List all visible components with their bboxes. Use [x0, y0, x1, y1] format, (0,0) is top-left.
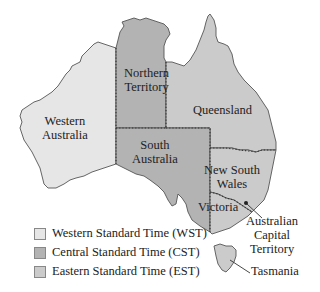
label-tasmania: Tasmania — [251, 264, 299, 278]
label-line: Wales — [204, 177, 260, 191]
label-line: Territory — [246, 242, 298, 256]
legend-label: Eastern Standard Time (EST) — [52, 264, 200, 279]
label-new-south-wales: New South Wales — [204, 163, 260, 191]
legend-item-cst: Central Standard Time (CST) — [34, 243, 207, 262]
label-line: Victoria — [198, 200, 238, 214]
label-line: South — [132, 138, 178, 152]
label-line: Tasmania — [251, 264, 299, 278]
label-line: Australia — [132, 152, 178, 166]
label-line: Australia — [42, 128, 88, 142]
label-northern-territory: Northern Territory — [124, 66, 169, 94]
label-line: Northern — [124, 66, 169, 80]
label-act: Australian Capital Territory — [246, 214, 298, 256]
swatch-cst — [34, 247, 46, 259]
label-queensland: Queensland — [193, 103, 252, 117]
label-line: Capital — [246, 228, 298, 242]
legend-label: Western Standard Time (WST) — [52, 226, 207, 241]
tasmania-pointer-line — [230, 260, 250, 273]
legend: Western Standard Time (WST) Central Stan… — [34, 224, 207, 281]
label-line: Territory — [124, 80, 169, 94]
legend-item-est: Eastern Standard Time (EST) — [34, 262, 207, 281]
label-western-australia: Western Australia — [42, 114, 88, 142]
swatch-wst — [34, 228, 46, 240]
label-line: Western — [42, 114, 88, 128]
swatch-est — [34, 266, 46, 278]
legend-label: Central Standard Time (CST) — [52, 245, 200, 260]
legend-item-wst: Western Standard Time (WST) — [34, 224, 207, 243]
label-line: New South — [204, 163, 260, 177]
region-tasmania — [214, 244, 236, 272]
label-line: Australian — [246, 214, 298, 228]
label-line: Queensland — [193, 103, 252, 117]
label-victoria: Victoria — [198, 200, 238, 214]
label-south-australia: South Australia — [132, 138, 178, 166]
